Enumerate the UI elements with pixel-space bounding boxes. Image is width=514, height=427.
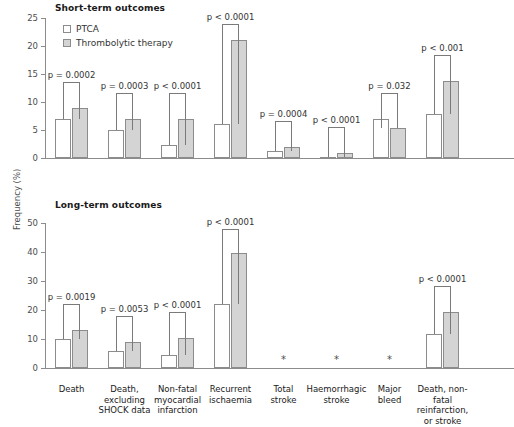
y-axis-tick: 10 <box>41 339 45 340</box>
y-axis-line-long-term <box>45 223 46 368</box>
bar-ptca <box>108 130 124 158</box>
p-value-label: p = 0.0003 <box>101 81 149 91</box>
significance-bracket <box>434 286 451 333</box>
y-axis-tick-label: 25 <box>27 13 38 23</box>
panel-title-long-term: Long-term outcomes <box>55 200 162 210</box>
p-value-label: p = 0.0053 <box>101 304 149 314</box>
panel-long-term: Long-term outcomes 01020304050p = 0.0019… <box>0 190 474 380</box>
significance-bracket <box>222 229 239 304</box>
significance-bracket <box>328 127 345 157</box>
significance-bracket <box>381 93 398 128</box>
bar-ptca <box>161 145 177 158</box>
y-axis-tick: 40 <box>41 252 45 253</box>
y-axis-tick-label: 50 <box>27 218 38 228</box>
y-axis-tick-label: 5 <box>33 125 38 135</box>
y-axis-tick: 25 <box>41 18 45 19</box>
significance-bracket <box>63 82 80 119</box>
significance-bracket <box>116 93 133 130</box>
y-axis-tick-label: 10 <box>27 334 38 344</box>
p-value-label: p < 0.0001 <box>207 12 255 22</box>
y-axis-tick-label: 30 <box>27 276 38 286</box>
x-axis-category-label: Death <box>41 384 102 395</box>
p-value-label: p < 0.0001 <box>419 274 467 284</box>
p-value-label: p < 0.0001 <box>154 300 202 310</box>
p-value-label: p < 0.001 <box>421 43 463 53</box>
p-value-label: p < 0.0001 <box>313 115 361 125</box>
y-axis-tick: 5 <box>41 130 45 131</box>
no-data-asterisk: * <box>387 354 392 365</box>
x-axis-category-label: Haemorrhagicstroke <box>306 384 367 405</box>
x-axis-line-long-term <box>45 368 514 369</box>
y-axis-tick: 20 <box>41 46 45 47</box>
y-axis-tick: 20 <box>41 310 45 311</box>
significance-bracket <box>222 24 239 124</box>
y-axis-tick: 10 <box>41 102 45 103</box>
p-value-label: p = 0.0019 <box>48 292 96 302</box>
bar-ptca <box>108 351 124 368</box>
plot-area-long-term: 01020304050p = 0.0019p = 0.0053p < 0.000… <box>45 223 469 368</box>
no-data-asterisk: * <box>281 354 286 365</box>
x-axis-line-short-term <box>45 158 514 159</box>
y-axis-tick: 50 <box>41 223 45 224</box>
significance-bracket <box>63 304 80 339</box>
significance-bracket <box>434 55 451 114</box>
x-axis-category-label: Recurrentischaemia <box>200 384 261 405</box>
x-axis-category-label: Death,excludingSHOCK data <box>94 384 155 416</box>
x-axis-category-label: Majorbleed <box>359 384 420 405</box>
x-axis-category-label: Totalstroke <box>253 384 314 405</box>
p-value-label: p = 0.0004 <box>260 109 308 119</box>
p-value-label: p = 0.0002 <box>48 70 96 80</box>
x-axis-category-label: Death, non-fatalreinfarction,or stroke <box>412 384 473 426</box>
y-axis-tick: 30 <box>41 281 45 282</box>
bar-ptca <box>214 304 230 368</box>
p-value-label: p = 0.032 <box>368 81 410 91</box>
y-axis-tick: 0 <box>41 368 45 369</box>
y-axis-tick-label: 10 <box>27 97 38 107</box>
p-value-label: p < 0.0001 <box>207 217 255 227</box>
y-axis-tick-label: 40 <box>27 247 38 257</box>
no-data-asterisk: * <box>334 354 339 365</box>
bar-ptca <box>320 157 336 159</box>
panel-title-short-term: Short-term outcomes <box>55 3 165 13</box>
panel-short-term: Short-term outcomes PTCA Thrombolytic th… <box>0 0 474 190</box>
p-value-label: p < 0.0001 <box>154 81 202 91</box>
y-axis-tick: 0 <box>41 158 45 159</box>
bar-ptca <box>214 124 230 158</box>
y-axis-tick-label: 20 <box>27 41 38 51</box>
bar-ptca <box>55 339 71 368</box>
y-axis-tick-label: 15 <box>27 69 38 79</box>
x-axis-category-label: Non-fatalmyocardialinfarction <box>147 384 208 416</box>
bar-thrombo <box>390 128 406 158</box>
y-axis-tick: 15 <box>41 74 45 75</box>
y-axis-line-short-term <box>45 18 46 158</box>
y-axis-tick-label: 20 <box>27 305 38 315</box>
bar-ptca <box>426 114 442 158</box>
x-axis-category-labels: DeathDeath,excludingSHOCK dataNon-fatalm… <box>45 381 469 427</box>
significance-bracket <box>169 93 186 145</box>
significance-bracket <box>275 121 292 151</box>
bar-ptca <box>55 119 71 158</box>
y-axis-tick-label: 0 <box>33 153 38 163</box>
significance-bracket <box>169 312 186 355</box>
bar-ptca <box>161 355 177 368</box>
bar-ptca <box>267 151 283 158</box>
y-axis-tick-label: 0 <box>33 363 38 373</box>
significance-bracket <box>116 316 133 351</box>
plot-area-short-term: 0510152025p = 0.0002p = 0.0003p < 0.0001… <box>45 18 469 158</box>
bar-ptca <box>426 334 442 368</box>
